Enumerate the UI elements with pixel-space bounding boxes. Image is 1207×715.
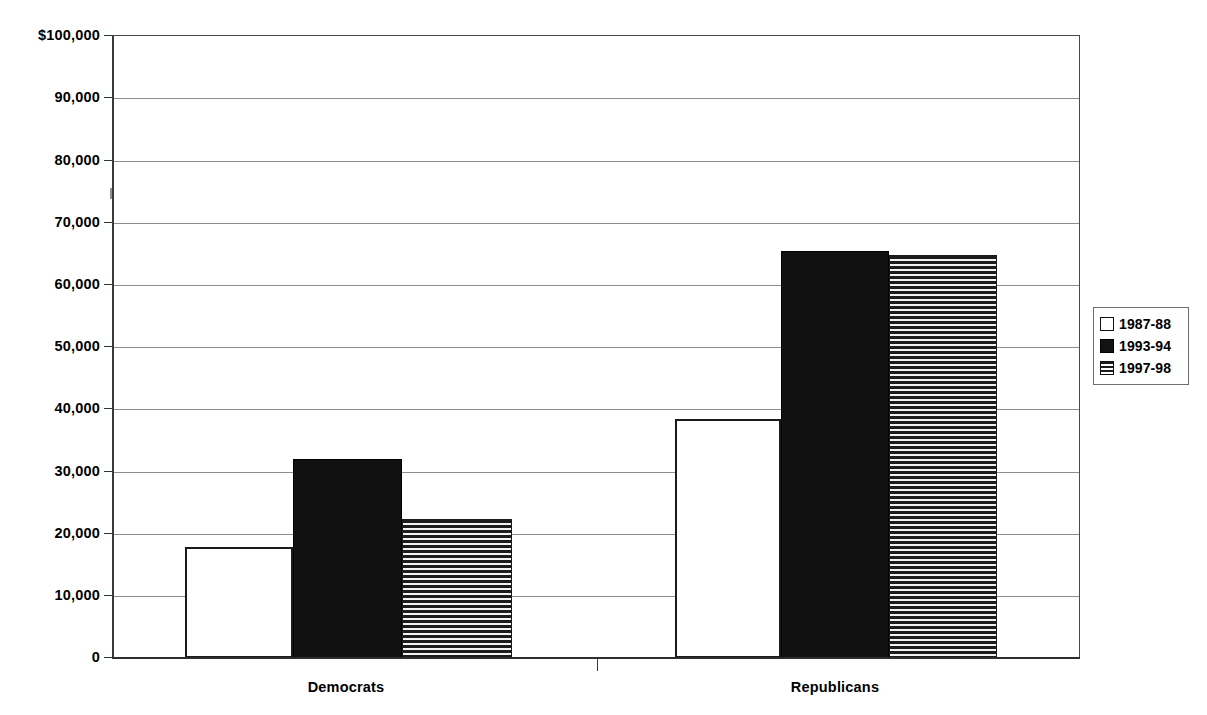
plot-area — [112, 35, 1080, 658]
legend-label: 1987-88 — [1119, 316, 1171, 332]
legend-item-1997-98[interactable]: 1997-98 — [1100, 357, 1183, 379]
y-tick-label: 30,000 — [8, 463, 100, 479]
category-label-democrats: Democrats — [246, 679, 446, 695]
y-tick-label: $100,000 — [8, 27, 100, 43]
striped-square-icon — [1100, 361, 1114, 375]
category-label-republicans: Republicans — [735, 679, 935, 695]
white-square-icon — [1100, 317, 1114, 331]
y-tick-label: 10,000 — [8, 587, 100, 603]
gridline — [114, 161, 1079, 162]
y-tick-label: 50,000 — [8, 338, 100, 354]
category-divider-tick — [597, 659, 598, 671]
y-tick-label: 80,000 — [8, 152, 100, 168]
y-tick-label: 40,000 — [8, 400, 100, 416]
legend-item-1993-94[interactable]: 1993-94 — [1100, 335, 1183, 357]
legend-label: 1997-98 — [1119, 360, 1171, 376]
legend[interactable]: 1987-88 1993-94 1997-98 — [1093, 307, 1189, 385]
gridline — [114, 98, 1079, 99]
y-axis: $100,000 90,000 80,000 70,000 60,000 50,… — [0, 0, 100, 715]
y-tick-label: 0 — [8, 649, 100, 665]
bar-democrats-1993-94[interactable] — [293, 459, 402, 658]
y-tick-label: 90,000 — [8, 89, 100, 105]
legend-item-1987-88[interactable]: 1987-88 — [1100, 313, 1183, 335]
x-axis-baseline — [112, 657, 1080, 659]
y-tick-label: 60,000 — [8, 276, 100, 292]
chart-page: $100,000 90,000 80,000 70,000 60,000 50,… — [0, 0, 1207, 715]
y-tick-label: 70,000 — [8, 214, 100, 230]
legend-label: 1993-94 — [1119, 338, 1171, 354]
bar-democrats-1987-88[interactable] — [185, 547, 293, 658]
gridline — [114, 223, 1079, 224]
bar-democrats-1997-98[interactable] — [402, 519, 512, 658]
bar-republicans-1987-88[interactable] — [675, 419, 781, 658]
bar-republicans-1993-94[interactable] — [781, 251, 889, 658]
bar-republicans-1997-98[interactable] — [889, 255, 997, 658]
y-tick-label: 20,000 — [8, 525, 100, 541]
black-square-icon — [1100, 339, 1114, 353]
